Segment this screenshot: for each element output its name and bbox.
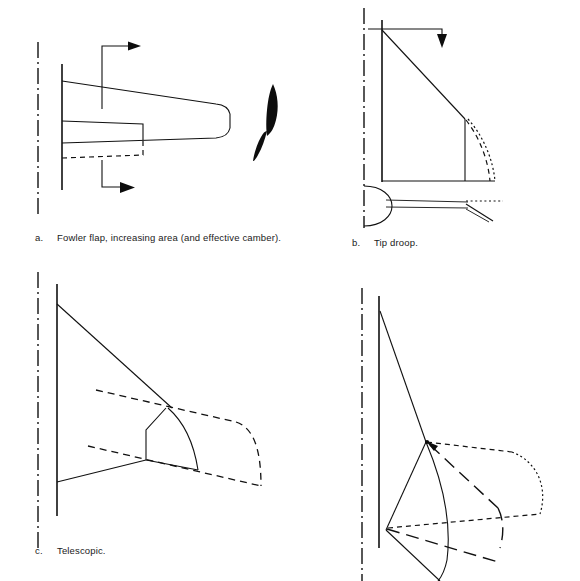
extended-tip-dotted-arc [512, 452, 543, 514]
wing-intermediate-tip-long-dash [498, 508, 503, 548]
telescoping-arc [168, 408, 198, 470]
motion-arrow-upper-head [128, 42, 141, 51]
wing-planform-tapered [62, 81, 230, 143]
motion-arrow-upper [102, 46, 131, 109]
side-view-wing-lower [386, 207, 468, 208]
caption-letter-c: c. [35, 545, 57, 556]
wing-forward-position-dashed [427, 442, 512, 452]
side-view-wing-upper [386, 200, 468, 202]
wing-leading-edge [57, 304, 172, 408]
droop-direction-arrow [368, 29, 442, 36]
wing-swept-position-solid [426, 442, 448, 581]
caption-panel-b: b.Tip droop. [352, 237, 418, 248]
caption-text-b: Tip droop. [374, 237, 418, 248]
panel-variable-sweep [290, 270, 580, 581]
wing-trailing-edge [57, 460, 146, 482]
airfoil-section-silhouette [266, 84, 277, 136]
side-view-drooped-tip [466, 204, 493, 221]
caption-letter-a: a. [35, 232, 57, 243]
wing-intermediate-trailing-long-dash [387, 529, 498, 562]
wing-intermediate-position-long-dash [430, 445, 498, 508]
droop-arc-dashed [466, 120, 490, 181]
caption-text-c: Telescopic. [57, 545, 106, 556]
figure-sheet: a.Fowler flap, increasing area (and effe… [0, 0, 580, 581]
panel-tip-droop [290, 0, 580, 270]
extended-panel-dashed-trailing-edge [88, 446, 261, 486]
caption-panel-c: c.Telescopic. [35, 545, 106, 556]
extended-panel-dashed-leading-edge [96, 390, 236, 422]
airfoil-flap-silhouette [253, 131, 267, 161]
wing-leading-edge-swept-back [380, 311, 426, 442]
caption-letter-b: b. [352, 237, 374, 248]
panel-telescopic [0, 270, 290, 581]
extended-tip-dashed [236, 422, 261, 486]
caption-panel-a: a.Fowler flap, increasing area (and effe… [35, 232, 281, 243]
motion-arrow-lower-head [120, 182, 135, 193]
wing-leading-edge-swept [382, 30, 465, 119]
side-view-fuselage-nose [364, 186, 392, 226]
wing-swept-trailing-edge [386, 442, 426, 530]
wing-forward-position-trailing-dashed [388, 514, 540, 528]
motion-arrow-lower [102, 160, 122, 187]
caption-text-a: Fowler flap, increasing area (and effect… [57, 232, 281, 243]
panel-fowler-flap [0, 0, 290, 270]
flap-panel-retracted [62, 121, 143, 140]
inner-panel-outline [146, 408, 166, 460]
droop-direction-arrow-head [437, 34, 447, 48]
wing-swept-root-line [386, 530, 440, 581]
